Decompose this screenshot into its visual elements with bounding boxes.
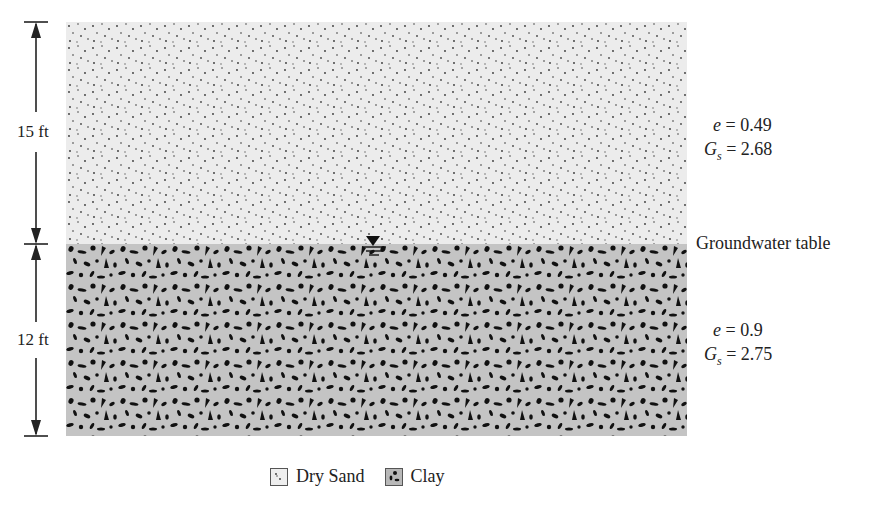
clay-void-ratio: = 0.9 <box>726 320 763 340</box>
sand-thickness-label: 15 ft <box>17 120 49 144</box>
specific-gravity-symbol: G <box>704 344 717 364</box>
clay-thickness-label: 12 ft <box>17 328 49 352</box>
void-ratio-symbol: e <box>713 115 721 135</box>
groundwater-label: Groundwater table <box>696 231 830 255</box>
clay-swatch-icon <box>385 468 403 486</box>
sand-properties: e = 0.49 Gs = 2.68 <box>704 113 772 168</box>
void-ratio-symbol: e <box>713 320 721 340</box>
legend-label: Clay <box>411 466 445 487</box>
legend-label: Dry Sand <box>296 466 365 487</box>
dry-sand-layer <box>66 22 687 244</box>
clay-layer <box>66 244 687 436</box>
dimension-arrows <box>0 0 66 450</box>
legend-item-clay: Clay <box>385 466 445 487</box>
sand-swatch-icon <box>270 468 288 486</box>
water-table-icon <box>360 234 390 262</box>
clay-properties: e = 0.9 Gs = 2.75 <box>704 318 772 373</box>
legend: Dry Sand Clay <box>270 466 445 487</box>
specific-gravity-symbol: G <box>704 139 717 159</box>
clay-blob-pattern <box>66 244 687 436</box>
legend-item-dry-sand: Dry Sand <box>270 466 365 487</box>
sand-specific-gravity: = 2.68 <box>726 139 772 159</box>
sand-void-ratio: = 0.49 <box>726 115 772 135</box>
sand-dot-pattern <box>66 22 687 244</box>
clay-specific-gravity: = 2.75 <box>726 344 772 364</box>
